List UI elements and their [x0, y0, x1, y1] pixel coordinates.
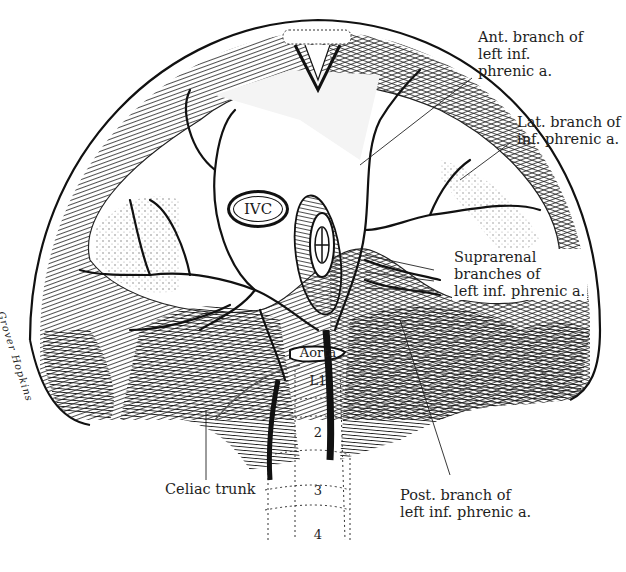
label-suprarenal: Suprarenal branches of left inf. phrenic…	[452, 249, 587, 300]
vertebra-4-label: 4	[300, 527, 336, 542]
label-lat-branch: Lat. branch of inf. phrenic a.	[517, 114, 621, 148]
label-post-branch: Post. branch of left inf. phrenic a.	[400, 487, 531, 521]
right-crus	[120, 306, 300, 470]
label-ant-branch: Ant. branch of left inf. phrenic a.	[478, 29, 583, 80]
aorta-label: Aorta	[294, 345, 342, 360]
ivc-label: IVC	[227, 190, 289, 228]
vertebra-3-label: 3	[300, 483, 336, 498]
ivc-text: IVC	[244, 200, 272, 218]
label-celiac-trunk: Celiac trunk	[165, 481, 256, 498]
vertebra-l1-label: L1	[300, 373, 336, 388]
vertebra-2-label: 2	[300, 425, 336, 440]
